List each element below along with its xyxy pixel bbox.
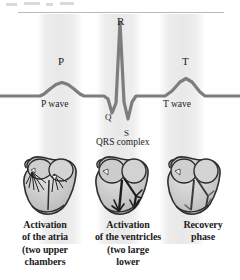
label-p-peak: P [58, 56, 64, 67]
label-qrs-complex: QRS complex [96, 138, 150, 148]
heart-diagram-recovery-phase [158, 150, 228, 218]
caption-line: lower [86, 256, 170, 268]
label-r-peak: R [117, 16, 124, 27]
caption-line: (two large [86, 244, 170, 256]
caption-line: Activation [86, 219, 170, 231]
heart-diagram-row [0, 150, 240, 218]
ecg-cardiac-cycle-figure: P R Q T P wave T wave S QRS complex [0, 0, 240, 280]
scan-artifact-band [0, 0, 240, 14]
caption-line: chambers [4, 256, 86, 268]
label-q-trough: Q [105, 113, 112, 122]
top-rule [18, 12, 224, 13]
heart-diagram-activation-of-the-ventricles [86, 150, 156, 218]
caption-line: of the atria [4, 231, 86, 243]
label-p-wave: P wave [41, 100, 68, 110]
caption-line: of the ventricles [86, 231, 170, 243]
caption-recovery-phase: Recovery phase [170, 219, 236, 244]
label-t-wave: T wave [163, 100, 191, 110]
ecg-waveform: P R Q T P wave T wave [0, 14, 240, 124]
caption-row: Activation of the atria (two upper chamb… [0, 219, 240, 280]
heart-diagram-activation-of-the-atria [14, 150, 84, 218]
caption-activation-of-the-ventricles: Activation of the ventricles (two large … [86, 219, 170, 269]
caption-line: Recovery [170, 219, 236, 231]
label-t-peak: T [182, 56, 189, 67]
caption-line: (two upper [4, 244, 86, 256]
caption-line: Activation [4, 219, 86, 231]
caption-line: phase [170, 231, 236, 243]
caption-activation-of-the-atria: Activation of the atria (two upper chamb… [4, 219, 86, 269]
